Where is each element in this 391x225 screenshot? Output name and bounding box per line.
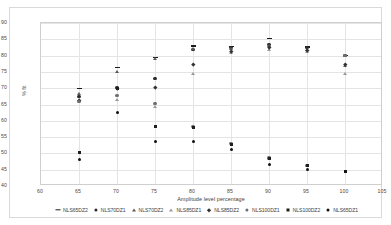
legend-item[interactable]: NLS65DZ1: [325, 207, 358, 213]
legend-label: NLS100DZ1: [252, 207, 280, 213]
y-tick-label: 85: [0, 35, 7, 41]
circle-grey-marker-icon: [244, 208, 250, 213]
data-point: [153, 77, 156, 80]
data-point: [191, 47, 195, 50]
square-marker-icon: [285, 208, 291, 213]
x-tick-label: 75: [142, 188, 166, 194]
circle-dark-marker-icon: [325, 208, 331, 213]
legend-label: NLS100DZ2: [293, 207, 321, 213]
gridline: [41, 153, 381, 154]
dash-marker-icon: [55, 208, 61, 213]
x-tick-label: 85: [218, 188, 242, 194]
data-point: [153, 105, 157, 108]
y-tick-label: 55: [0, 133, 7, 139]
legend-item[interactable]: NLS70DZ2: [131, 207, 164, 213]
gridline: [41, 56, 381, 57]
circle-marker-icon: [93, 208, 99, 213]
x-tick-label: 100: [332, 188, 356, 194]
gridline: [41, 88, 381, 89]
data-point: [268, 163, 271, 166]
y-tick-label: 40: [0, 182, 7, 188]
x-tick-label: 60: [28, 188, 52, 194]
data-point: [268, 157, 271, 160]
y-tick-label: 80: [0, 52, 7, 58]
legend-label: NLS65DZ2: [63, 207, 88, 213]
gridline: [41, 39, 381, 40]
legend-item[interactable]: NLS85DZ2: [206, 207, 239, 213]
legend-item[interactable]: NLS100DZ2: [285, 207, 321, 213]
x-tick-label: 70: [104, 188, 128, 194]
y-tick-label: 50: [0, 149, 7, 155]
x-tick-label: 80: [180, 188, 204, 194]
legend-label: NLS85DZ1: [176, 207, 201, 213]
data-point: [78, 158, 81, 161]
gridline: [345, 23, 346, 184]
gridline: [41, 170, 381, 171]
gridline: [41, 72, 381, 73]
data-point: [77, 88, 82, 89]
data-point: [267, 38, 272, 39]
x-tick-label: 65: [66, 188, 90, 194]
diamond-marker-icon: [206, 208, 212, 213]
data-point: [191, 72, 195, 75]
data-point: [306, 164, 309, 167]
plot-area: [40, 22, 382, 185]
gridline: [41, 105, 381, 106]
data-point: [154, 125, 157, 128]
triangle-open-marker-icon: [168, 208, 174, 213]
data-point: [77, 100, 80, 103]
legend-item[interactable]: NLS70DZ1: [93, 207, 126, 213]
data-point: [344, 170, 347, 173]
data-point: [115, 98, 119, 101]
legend-label: NLS70DZ1: [101, 207, 126, 213]
y-tick-label: 90: [0, 19, 7, 25]
x-tick-label: 90: [256, 188, 280, 194]
y-tick-label: 70: [0, 84, 7, 90]
x-axis-title: Amplitude level percentage: [40, 196, 382, 202]
x-tick-label: 95: [294, 188, 318, 194]
y-tick-label: 60: [0, 117, 7, 123]
legend-label: NLS70DZ2: [139, 207, 164, 213]
y-tick-label: 65: [0, 101, 7, 107]
legend-label: NLS85DZ2: [214, 207, 239, 213]
data-point: [192, 126, 195, 129]
data-point: [115, 70, 119, 73]
legend-item[interactable]: NLS100DZ1: [244, 207, 280, 213]
data-point: [192, 140, 195, 143]
data-point: [78, 151, 81, 154]
data-point: [115, 67, 120, 68]
legend-item[interactable]: NLS85DZ1: [168, 207, 201, 213]
data-point: [116, 87, 119, 90]
x-tick-label: 105: [370, 188, 391, 194]
chart-legend: NLS65DZ2NLS70DZ1NLS70DZ2NLS85DZ1NLS85DZ2…: [24, 207, 389, 213]
y-axis-title: % fit: [21, 85, 27, 96]
data-point: [343, 72, 347, 75]
triangle-marker-icon: [131, 208, 137, 213]
y-tick-label: 75: [0, 68, 7, 74]
data-point: [230, 148, 233, 151]
gridline: [117, 23, 118, 184]
legend-label: NLS65DZ1: [333, 207, 358, 213]
data-point: [115, 94, 118, 97]
gridline: [41, 121, 381, 122]
chart-frame: 4045505560657075808590 60657075808590951…: [9, 7, 382, 218]
gridline: [41, 23, 381, 24]
data-point: [230, 143, 233, 146]
legend-item[interactable]: NLS65DZ2: [55, 207, 88, 213]
data-point: [191, 63, 195, 67]
data-point: [343, 54, 346, 57]
data-point: [306, 168, 309, 171]
data-point: [77, 92, 81, 95]
y-tick-label: 45: [0, 166, 7, 172]
scatter-chart: 4045505560657075808590 60657075808590951…: [0, 0, 391, 225]
data-point: [153, 57, 157, 60]
gridline: [41, 137, 381, 138]
